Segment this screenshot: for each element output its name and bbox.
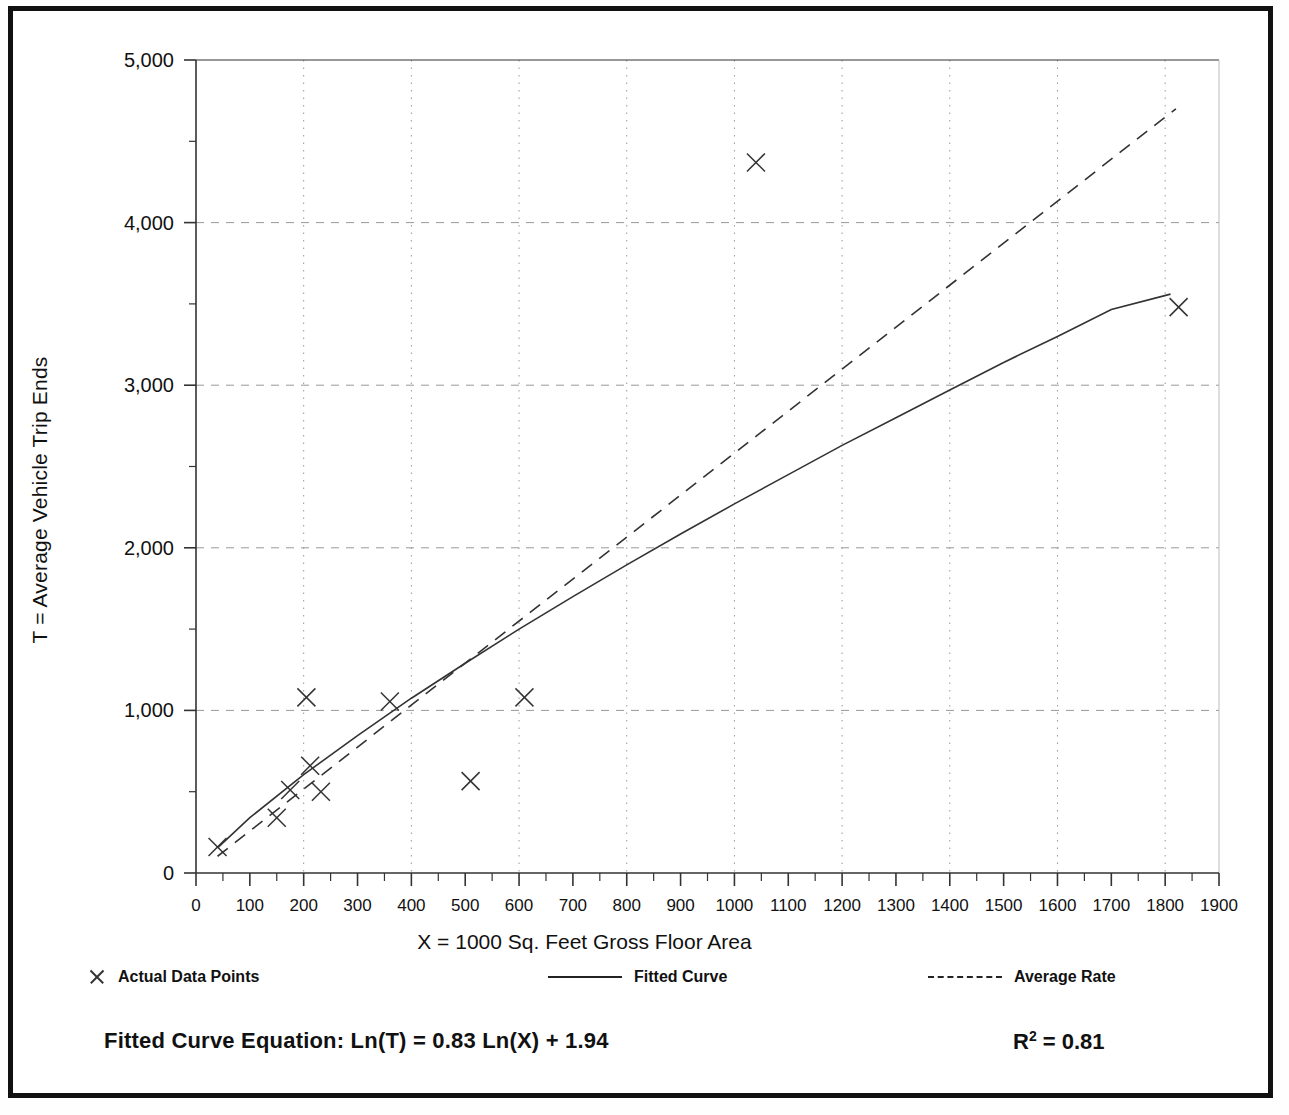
x-tick-label: 1500 <box>985 896 1023 915</box>
data-points-group <box>209 153 1188 856</box>
r-squared-prefix: R <box>1013 1029 1029 1054</box>
x-tick-label: 200 <box>289 896 317 915</box>
x-tick-label: 1400 <box>931 896 969 915</box>
x-tick-label: 1900 <box>1200 896 1238 915</box>
x-tick-label: 0 <box>191 896 200 915</box>
x-tick-label: 1000 <box>716 896 754 915</box>
y-tick-label: 3,000 <box>124 374 174 396</box>
x-tick-label: 400 <box>397 896 425 915</box>
fitted-curve-equation: Fitted Curve Equation: Ln(T) = 0.83 Ln(X… <box>104 1028 609 1054</box>
legend-label-fitted-curve: Fitted Curve <box>634 968 727 986</box>
y-tick-label: 0 <box>163 862 174 884</box>
x-tick-label: 1700 <box>1092 896 1130 915</box>
x-tick-label: 1600 <box>1039 896 1077 915</box>
x-tick-label: 1800 <box>1146 896 1184 915</box>
dashed-line-icon <box>928 976 1002 978</box>
r-squared-exponent: 2 <box>1029 1028 1037 1044</box>
y-axis-title: T = Average Vehicle Trip Ends <box>28 0 52 300</box>
solid-line-icon <box>548 976 622 978</box>
x-tick-label: 700 <box>559 896 587 915</box>
x-tick-label: 1100 <box>770 896 807 915</box>
x-tick-label: 1300 <box>877 896 915 915</box>
x-tick-label: 100 <box>236 896 264 915</box>
x-tick-label: 500 <box>451 896 479 915</box>
legend-label-average-rate: Average Rate <box>1014 968 1116 986</box>
x-tick-label: 800 <box>613 896 641 915</box>
x-tick-label: 900 <box>666 896 694 915</box>
x-tick-label: 300 <box>343 896 371 915</box>
x-tick-label: 1200 <box>823 896 861 915</box>
chart-footer: Fitted Curve Equation: Ln(T) = 0.83 Ln(X… <box>0 1028 1289 1068</box>
y-tick-label: 4,000 <box>124 212 174 234</box>
r-squared-value: R2 = 0.81 <box>1013 1028 1105 1055</box>
average-rate-line <box>218 109 1176 856</box>
legend-item-actual-data-points: Actual Data Points <box>88 968 259 986</box>
legend-label-actual-data-points: Actual Data Points <box>118 968 259 986</box>
y-tick-label: 2,000 <box>124 537 174 559</box>
legend-item-average-rate: Average Rate <box>928 968 1116 986</box>
fitted-curve-line <box>218 294 1171 848</box>
legend-item-fitted-curve: Fitted Curve <box>548 968 727 986</box>
x-axis-title: X = 1000 Sq. Feet Gross Floor Area <box>0 930 1289 954</box>
y-tick-label: 1,000 <box>124 699 174 721</box>
x-marker-icon <box>88 968 106 986</box>
r-squared-number: = 0.81 <box>1037 1029 1105 1054</box>
x-tick-label: 600 <box>505 896 533 915</box>
y-tick-label: 5,000 <box>124 49 174 71</box>
chart-page: 01,0002,0003,0004,0005,00001002003004005… <box>0 0 1289 1115</box>
chart-legend: Actual Data Points Fitted Curve Average … <box>0 968 1289 1002</box>
